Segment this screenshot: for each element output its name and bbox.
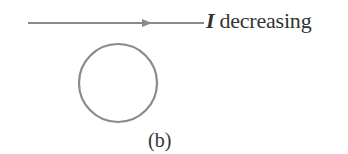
conducting-loop	[79, 44, 157, 122]
figure-caption: (b)	[148, 128, 171, 152]
current-label: Idecreasing	[206, 8, 311, 34]
induction-figure: Idecreasing (b)	[0, 0, 348, 154]
current-symbol: I	[206, 8, 214, 33]
current-state: decreasing	[219, 8, 311, 33]
current-direction-arrow-icon	[142, 19, 152, 27]
